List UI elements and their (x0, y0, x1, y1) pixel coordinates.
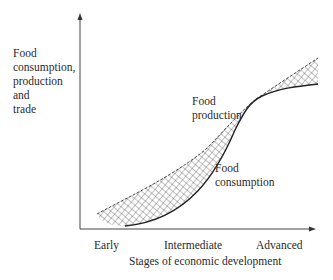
x-axis-label: Stages of economic development (129, 254, 281, 268)
x-tick-early: Early (94, 238, 119, 252)
consumption-label: Food consumption (215, 161, 274, 189)
x-axis (80, 227, 316, 232)
x-tick-intermediate: Intermediate (164, 238, 222, 252)
y-axis-label: Food consumption, production and trade (13, 46, 75, 116)
production-label: Food production (192, 94, 242, 122)
x-tick-advanced: Advanced (256, 238, 303, 252)
y-axis (78, 13, 83, 229)
trade-gap-area (97, 58, 318, 226)
